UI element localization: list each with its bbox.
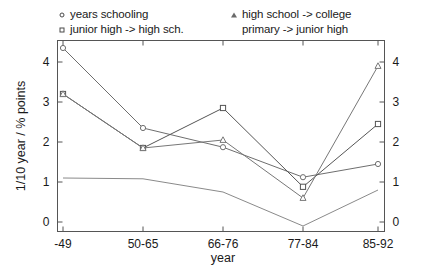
y-tick-label-right: 4 (393, 55, 400, 69)
series-layer (60, 45, 381, 226)
series-3 (60, 63, 381, 201)
chart-root: years schooling junior high -> high sch.… (0, 0, 435, 270)
data-point-triangle (300, 195, 306, 201)
y-tick-label: 1 (43, 175, 50, 189)
x-axis-title: year (211, 251, 235, 265)
plot-area: 01234 01234 -4950-6566-7677-8485-92 1/10… (0, 0, 435, 270)
x-tick-label: -49 (54, 237, 72, 251)
y-axis-right: 01234 (380, 55, 400, 229)
data-point-square (220, 105, 225, 110)
data-point-triangle (375, 63, 381, 69)
y-tick-label-right: 2 (393, 135, 400, 149)
data-point-circle (60, 45, 65, 50)
x-tick-label: 66-76 (208, 237, 239, 251)
data-point-square (300, 184, 305, 189)
y-tick-label-right: 1 (393, 175, 400, 189)
y-tick-label: 0 (43, 215, 50, 229)
chart-svg: 01234 01234 -4950-6566-7677-8485-92 1/10… (0, 0, 435, 270)
y-tick-label: 2 (43, 135, 50, 149)
series-4 (63, 178, 378, 226)
data-point-circle (220, 145, 225, 150)
y-tick-label: 4 (43, 55, 50, 69)
x-tick-label: 50-65 (128, 237, 159, 251)
data-point-circle (300, 175, 305, 180)
series-line (63, 178, 378, 226)
x-tick-label: 85-92 (363, 237, 394, 251)
y-tick-label: 3 (43, 95, 50, 109)
series-line (63, 48, 378, 177)
series-1 (60, 45, 380, 179)
x-tick-label: 77-84 (288, 237, 319, 251)
y-axis-left: 01234 (43, 55, 63, 229)
data-point-circle (375, 161, 380, 166)
plot-frame (58, 41, 385, 232)
data-point-circle (140, 125, 145, 130)
y-axis-title: 1/10 year / % points (14, 81, 28, 191)
y-tick-label-right: 3 (393, 95, 400, 109)
y-tick-label-right: 0 (393, 215, 400, 229)
data-point-square (375, 121, 380, 126)
data-point-triangle (220, 137, 226, 143)
